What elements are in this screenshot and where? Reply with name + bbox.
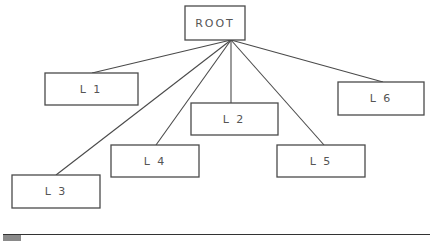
node-l2: L 2 [191, 103, 278, 135]
node-root: ROOT [185, 6, 245, 40]
node-label: L 5 [310, 155, 333, 168]
node-label: ROOT [195, 17, 235, 30]
bottom-divider [3, 234, 430, 235]
node-label: L 6 [370, 92, 393, 105]
node-label: L 3 [45, 185, 68, 198]
bottom-corner-tab [3, 235, 21, 241]
node-l5: L 5 [277, 145, 365, 177]
node-l1: L 1 [45, 73, 138, 105]
node-l4: L 4 [111, 145, 199, 177]
node-label: L 4 [144, 155, 167, 168]
node-label: L 2 [223, 113, 246, 126]
node-label: L 1 [80, 83, 103, 96]
node-l3: L 3 [12, 175, 100, 208]
node-l6: L 6 [338, 82, 424, 115]
tree-diagram: ROOT L 1 L 2 L 3 L 4 L 5 L 6 [0, 0, 433, 241]
edge-root-l6 [231, 40, 383, 82]
